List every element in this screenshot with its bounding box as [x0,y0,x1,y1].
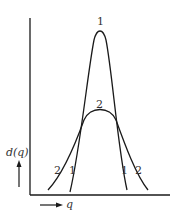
up-arrowhead-icon [17,160,22,167]
label-left-curve-1: 1 [69,164,76,177]
curve-2 [48,110,148,191]
label-left-curve-2: 2 [54,164,61,177]
y-axis-label: d(q) [6,146,29,159]
label-peak-2: 2 [96,98,103,111]
label-right-curve-1: 1 [121,164,128,177]
label-peak-1: 1 [97,15,104,28]
distribution-diagram: 1 2 2 1 1 2 d(q) q [0,0,180,220]
right-arrowhead-icon [56,203,63,208]
x-axis-label: q [66,198,73,211]
curve-1 [70,31,127,192]
label-right-curve-2: 2 [135,164,142,177]
